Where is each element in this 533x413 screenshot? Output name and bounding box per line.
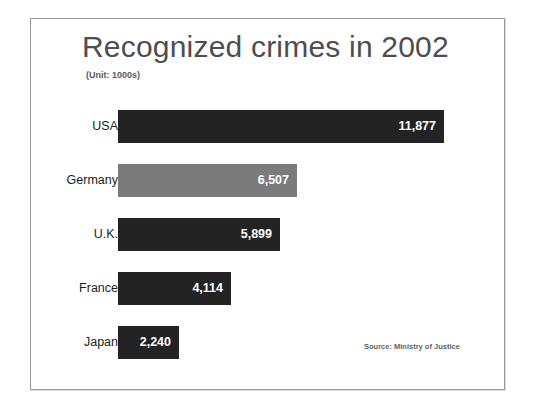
bar-u-k-: 5,899 <box>118 218 280 251</box>
bar-category-label: Germany <box>0 164 118 197</box>
bar-row: U.K.5,899 <box>30 218 500 251</box>
bar-value-label: 6,507 <box>258 164 289 197</box>
bar-row: Germany6,507 <box>30 164 500 197</box>
bar-value-label: 11,877 <box>398 110 436 143</box>
bar-value-label: 5,899 <box>241 218 272 251</box>
bar-row: France4,114 <box>30 272 500 305</box>
bar-france: 4,114 <box>118 272 231 305</box>
bar-category-label: USA <box>0 110 118 143</box>
bar-category-label: France <box>0 272 118 305</box>
chart-unit-subtitle: (Unit: 1000s) <box>86 70 140 80</box>
bar-value-label: 2,240 <box>140 326 171 359</box>
source-attribution: Source: Ministry of Justice <box>364 342 460 351</box>
bar-category-label: Japan <box>0 326 118 359</box>
chart-screenshot: Recognized crimes in 2002 (Unit: 1000s) … <box>0 0 533 413</box>
bar-usa: 11,877 <box>118 110 444 143</box>
bar-chart-plot-area: USA11,877Germany6,507U.K.5,899France4,11… <box>30 108 500 368</box>
bar-category-label: U.K. <box>0 218 118 251</box>
bar-row: USA11,877 <box>30 110 500 143</box>
bar-japan: 2,240 <box>118 326 179 359</box>
bar-germany: 6,507 <box>118 164 297 197</box>
bar-value-label: 4,114 <box>192 272 223 305</box>
chart-title: Recognized crimes in 2002 <box>82 30 449 64</box>
